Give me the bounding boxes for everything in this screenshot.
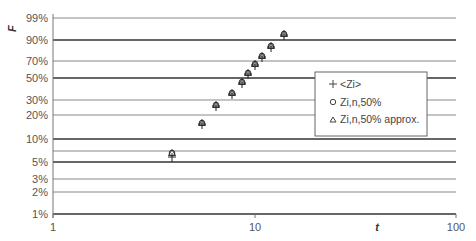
y-axis-title: F xyxy=(6,25,18,32)
data-point xyxy=(198,120,206,130)
data-point xyxy=(267,43,275,53)
y-tick-label: 70% xyxy=(26,55,48,67)
x-tick-label-100: 100 xyxy=(447,221,465,233)
x-tick-label-1: 1 xyxy=(50,221,56,233)
y-tick-labels: 99%90%70%50%30%20%10%5%3%2%1% xyxy=(26,12,48,220)
data-point xyxy=(238,79,246,89)
y-tick-label: 50% xyxy=(26,72,48,84)
y-tick-label: 99% xyxy=(26,12,48,24)
y-tick-label: 3% xyxy=(32,173,48,185)
y-tick-label: 90% xyxy=(26,34,48,46)
x-tick-label-10: 10 xyxy=(249,221,261,233)
legend-label-median-rank: Zi,n,50% xyxy=(340,96,381,108)
y-tick-label: 20% xyxy=(26,109,48,121)
x-axis-title: t xyxy=(375,221,380,233)
y-tick-label: 1% xyxy=(32,208,48,220)
data-point xyxy=(212,102,220,112)
data-point xyxy=(251,61,259,71)
legend-label-mean: <Zi> xyxy=(340,78,361,90)
legend-item-median-rank-approx: Zi,n,50% approx. xyxy=(330,113,419,125)
y-tick-label: 5% xyxy=(32,156,48,168)
y-tick-label: 2% xyxy=(32,186,48,198)
data-points xyxy=(168,31,288,163)
data-point xyxy=(228,90,236,100)
legend: <Zi> Zi,n,50% Zi,n,50% approx. xyxy=(315,72,427,136)
legend-label-median-rank-approx: Zi,n,50% approx. xyxy=(340,113,419,125)
weibull-probability-chart: F 99%90%70%50%30%20%10%5%3%2%1% 1 10 100… xyxy=(0,0,476,241)
y-tick-label: 30% xyxy=(26,94,48,106)
y-tick-label: 10% xyxy=(26,133,48,145)
data-point xyxy=(280,31,288,41)
